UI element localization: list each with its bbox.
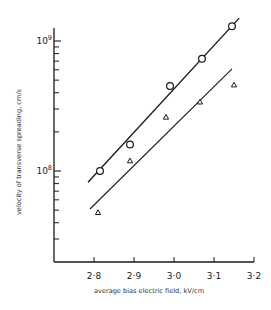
triangle-marker [197,99,202,104]
circles-fit-line [88,18,239,182]
y-tick-label: 109 [36,34,52,46]
x-tick-label: 3·1 [207,271,221,281]
x-tick-label: 2·8 [87,271,102,281]
circle-marker [97,168,104,175]
circle-marker [229,23,236,30]
y-axis: 108109 [36,28,61,262]
y-axis-label: velocity of transverse spreading, cm/s [15,88,23,215]
x-tick-label: 3·0 [167,271,182,281]
x-axis: 2·82·93·03·13·2 [54,257,261,281]
circle-marker [167,83,174,90]
circle-marker [199,55,206,62]
chart: 108109 2·82·93·03·13·2 average bias elec… [0,0,271,310]
y-tick-label: 108 [36,164,52,176]
circle-marker [127,141,134,148]
x-axis-label: average bias electric field, kV/cm [94,287,204,295]
data-markers [95,23,236,215]
triangle-marker [127,158,132,163]
x-tick-label: 3·2 [247,271,261,281]
fit-lines [88,18,239,209]
triangle-marker [95,210,100,215]
triangle-marker [163,114,168,119]
triangles-fit-line [90,69,232,209]
x-tick-label: 2·9 [127,271,142,281]
triangle-marker [231,82,236,87]
